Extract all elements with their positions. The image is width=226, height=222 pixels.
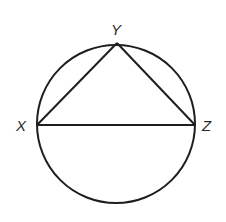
label-x: X [15, 117, 27, 134]
geometry-diagram: Y X Z [0, 0, 226, 222]
label-y: Y [111, 21, 122, 38]
label-z: Z [201, 117, 212, 134]
